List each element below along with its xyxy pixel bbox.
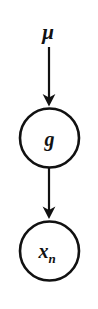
node-xn-base: x bbox=[37, 240, 48, 262]
node-g-label: g bbox=[44, 128, 55, 151]
edge-mu-to-g bbox=[43, 47, 56, 107]
graphical-model-figure: g xn μ bbox=[0, 0, 98, 309]
node-xn-subscript: n bbox=[48, 251, 55, 266]
graph-canvas: g xn μ bbox=[0, 0, 98, 309]
edge-g-to-xn bbox=[43, 168, 56, 219]
parameter-mu-label: μ bbox=[41, 20, 54, 44]
